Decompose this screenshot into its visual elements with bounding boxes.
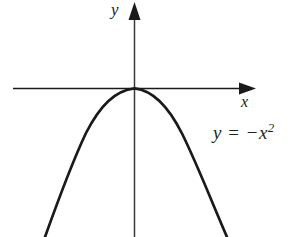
parabola-curve xyxy=(45,88,227,237)
x-axis-label: x xyxy=(241,94,248,110)
y-axis-label: y xyxy=(111,1,119,18)
equation-base: x xyxy=(259,122,268,143)
equation-exponent: 2 xyxy=(268,120,275,135)
graph-figure: y x y = −x2 xyxy=(0,0,300,237)
y-axis-arrowhead xyxy=(129,2,141,20)
plot-canvas xyxy=(0,0,300,237)
equation-equals-sign: = xyxy=(227,122,240,143)
equation-minus-sign: − xyxy=(246,122,259,143)
equation-lhs: y xyxy=(213,122,222,143)
equation-annotation: y = −x2 xyxy=(213,122,275,142)
